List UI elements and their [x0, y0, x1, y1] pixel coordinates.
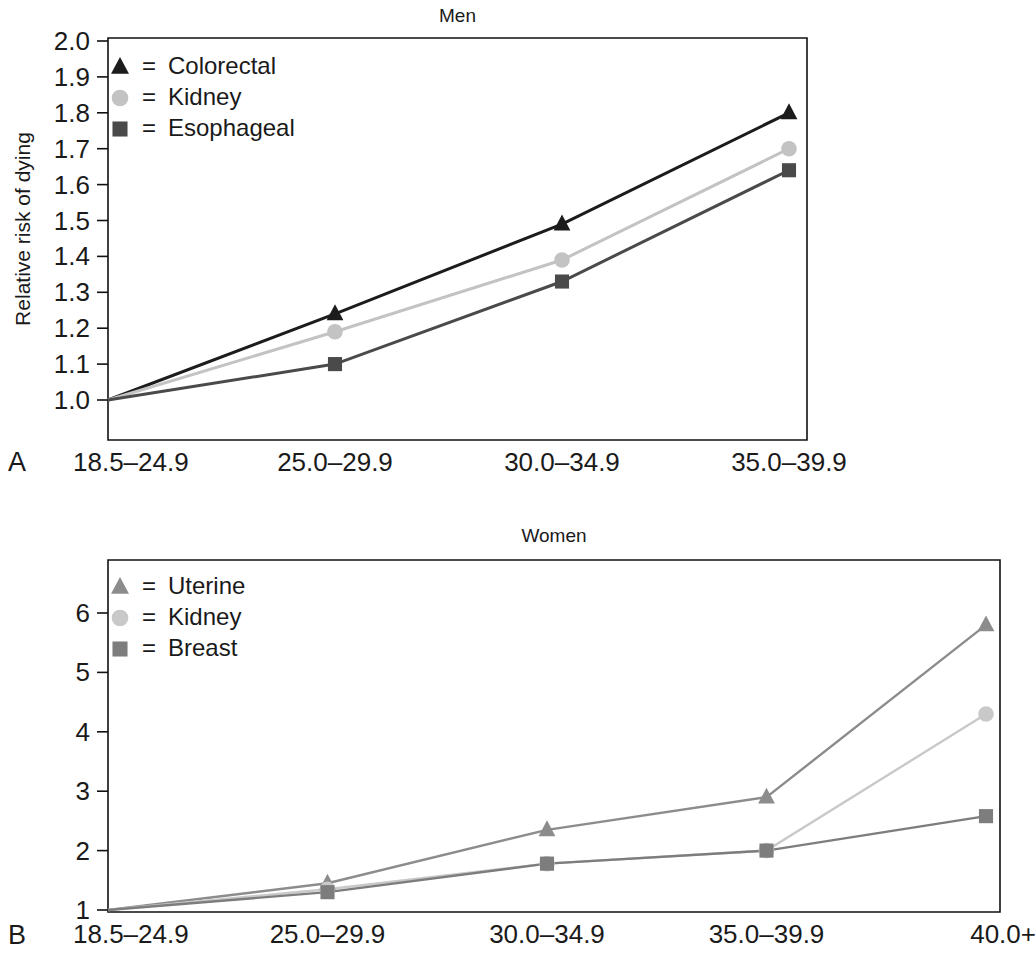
panel-title-a: Men: [439, 5, 476, 26]
data-point-esophageal: [782, 163, 796, 177]
data-point-kidney: [327, 324, 343, 340]
y-tick-label: 1.2: [54, 313, 90, 343]
y-tick-label: 6: [76, 598, 90, 628]
legend-label-colorectal: Colorectal: [168, 52, 276, 79]
legend-equals-sign: =: [142, 634, 156, 661]
x-category-label-1: 25.0–29.9: [277, 447, 393, 477]
y-tick-label: 1.1: [54, 349, 90, 379]
legend-marker-kidney: [112, 610, 129, 627]
legend-marker-breast: [112, 641, 127, 656]
y-tick-label: 1.5: [54, 206, 90, 236]
y-tick-label: 1.9: [54, 62, 90, 92]
legend-label-breast: Breast: [168, 634, 238, 661]
data-point-kidney: [554, 252, 570, 268]
data-point-breast: [979, 809, 993, 823]
legend-label-uterine: Uterine: [168, 572, 245, 599]
panel-title-b: Women: [521, 525, 586, 546]
panel-a: Men1.01.11.21.31.41.51.61.71.81.92.018.5…: [8, 5, 847, 477]
legend-equals-sign: =: [142, 52, 156, 79]
panel-letter-b: B: [8, 920, 26, 950]
y-tick-label: 2.0: [54, 26, 90, 56]
data-point-esophageal: [555, 274, 569, 288]
data-point-kidney: [978, 706, 994, 722]
series-line-colorectal: [108, 113, 789, 400]
y-tick-label: 1.7: [54, 134, 90, 164]
panel-letter-a: A: [8, 447, 26, 477]
data-point-colorectal: [781, 103, 798, 119]
y-tick-label: 4: [76, 717, 90, 747]
panel-b: Women12345618.5–24.925.0–29.930.0–34.935…: [8, 525, 1036, 950]
series-line-esophageal: [108, 170, 789, 400]
data-point-breast: [320, 885, 334, 899]
x-category-label-3: 35.0–39.9: [709, 919, 825, 949]
legend-marker-colorectal: [111, 57, 129, 74]
legend-marker-esophageal: [112, 121, 127, 136]
x-category-label-4: 40.0+: [970, 919, 1036, 949]
x-category-label-1: 25.0–29.9: [270, 919, 386, 949]
y-tick-label: 3: [76, 776, 90, 806]
x-category-label-0: 18.5–24.9: [73, 919, 189, 949]
legend-label-kidney: Kidney: [168, 83, 241, 110]
y-tick-label: 1.3: [54, 277, 90, 307]
legend-equals-sign: =: [142, 83, 156, 110]
legend-label-esophageal: Esophageal: [168, 114, 295, 141]
data-point-uterine: [758, 788, 775, 804]
legend-marker-kidney: [112, 90, 129, 107]
data-point-uterine: [978, 615, 995, 631]
y-tick-label: 5: [76, 657, 90, 687]
data-point-esophageal: [328, 357, 342, 371]
series-line-kidney: [108, 714, 986, 910]
x-category-label-0: 18.5–24.9: [73, 447, 189, 477]
y-tick-label: 1.8: [54, 98, 90, 128]
data-point-breast: [540, 857, 554, 871]
y-tick-label: 2: [76, 836, 90, 866]
legend-marker-uterine: [111, 577, 129, 594]
legend-label-kidney: Kidney: [168, 603, 241, 630]
x-category-label-3: 35.0–39.9: [731, 447, 847, 477]
legend-equals-sign: =: [142, 603, 156, 630]
figure-canvas: Men1.01.11.21.31.41.51.61.71.81.92.018.5…: [0, 0, 1036, 953]
legend-equals-sign: =: [142, 572, 156, 599]
x-category-label-2: 30.0–34.9: [504, 447, 620, 477]
y-tick-label: 1.0: [54, 385, 90, 415]
y-tick-label: 1.6: [54, 170, 90, 200]
legend-equals-sign: =: [142, 114, 156, 141]
data-point-breast: [759, 844, 773, 858]
y-tick-label: 1.4: [54, 241, 90, 271]
data-point-kidney: [781, 141, 797, 157]
y-axis-title: Relative risk of dying: [11, 132, 34, 326]
bmi-cancer-mortality-figure: Men1.01.11.21.31.41.51.61.71.81.92.018.5…: [0, 0, 1036, 953]
x-category-label-2: 30.0–34.9: [489, 919, 605, 949]
